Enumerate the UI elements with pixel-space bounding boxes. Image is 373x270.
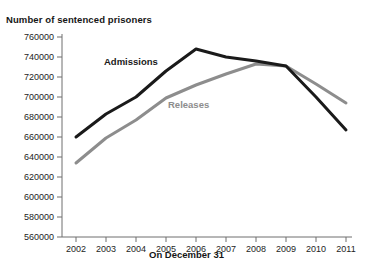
- x-axis-tick-labels: 2002 2003 2004 2005 2006 2007 2008 2009 …: [0, 0, 373, 270]
- chart-container: Number of sentenced prisoners 760000 740…: [0, 0, 373, 270]
- series-label-admissions: Admissions: [104, 56, 158, 67]
- series-label-releases: Releases: [168, 99, 209, 110]
- x-axis-title: On December 31: [0, 249, 373, 260]
